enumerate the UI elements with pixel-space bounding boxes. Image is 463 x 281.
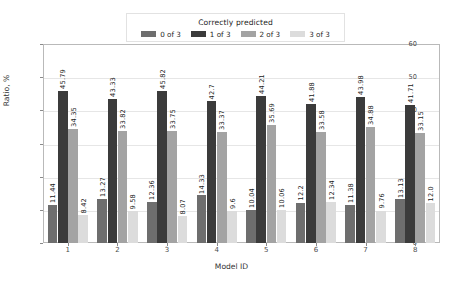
- y-axis-label: Ratio, %: [2, 75, 11, 107]
- x-tick-label: 4: [214, 246, 218, 254]
- bar-value-label: 12.34: [328, 180, 336, 200]
- legend-title: Correctly predicted: [198, 18, 273, 28]
- x-tick-mark: [266, 243, 267, 246]
- bar: [97, 199, 107, 243]
- x-tick-label: 6: [314, 246, 318, 254]
- bar-value-label: 33.75: [169, 109, 177, 129]
- bar: [415, 133, 425, 243]
- bars-layer: 11.4445.7934.358.4213.2743.3333.829.5812…: [43, 44, 440, 243]
- bar: [108, 99, 118, 243]
- bar: [217, 132, 227, 243]
- bar: [246, 210, 256, 243]
- bar: [306, 104, 316, 243]
- x-tick-mark: [217, 243, 218, 246]
- x-tick-label: 8: [413, 246, 417, 254]
- chart-legend: Correctly predicted 0 of 31 of 32 of 33 …: [126, 13, 345, 42]
- bar-value-label: 13.13: [397, 178, 405, 198]
- x-tick-mark: [366, 243, 367, 246]
- bar-value-label: 14.33: [198, 174, 206, 194]
- x-tick-label: 1: [66, 246, 70, 254]
- x-axis-label: Model ID: [0, 262, 463, 271]
- legend-swatch-icon: [241, 31, 256, 37]
- bar: [157, 91, 167, 243]
- bar: [395, 199, 405, 243]
- bar-value-label: 9.6: [229, 198, 237, 209]
- bar-value-label: 11.38: [347, 183, 355, 203]
- legend-label: 0 of 3: [160, 30, 181, 39]
- bar: [267, 125, 277, 243]
- legend-swatch-icon: [141, 31, 156, 37]
- x-tick-mark: [316, 243, 317, 246]
- bar: [376, 211, 386, 243]
- bar-value-label: 42.7: [208, 84, 216, 99]
- x-tick-label: 3: [165, 246, 169, 254]
- bar-value-label: 8.42: [80, 198, 88, 213]
- bar-value-label: 12.0: [427, 186, 435, 201]
- bar-value-label: 43.33: [109, 77, 117, 97]
- x-tick-mark: [68, 243, 69, 246]
- bar: [326, 202, 336, 243]
- bar-value-label: 33.15: [417, 111, 425, 131]
- bar-value-label: 33.37: [218, 110, 226, 130]
- bar: [197, 195, 207, 243]
- x-tick-label: 7: [363, 246, 367, 254]
- bar-value-label: 41.88: [308, 82, 316, 102]
- legend-entry-3[interactable]: 3 of 3: [290, 30, 330, 39]
- x-tick-mark: [415, 243, 416, 246]
- bar-value-label: 35.69: [268, 103, 276, 123]
- bar: [345, 205, 355, 243]
- x-tick-mark: [167, 243, 168, 246]
- legend-entries: 0 of 31 of 32 of 33 of 3: [141, 30, 330, 39]
- bar: [277, 210, 287, 243]
- bar: [78, 215, 88, 243]
- bar-value-label: 8.07: [179, 199, 187, 214]
- bar: [128, 211, 138, 243]
- bar-value-label: 43.98: [357, 75, 365, 95]
- bar: [167, 131, 177, 243]
- x-tick-mark: [117, 243, 118, 246]
- bar-value-label: 10.06: [278, 188, 286, 208]
- bar-value-label: 45.82: [159, 69, 167, 89]
- bar: [48, 205, 58, 243]
- bar-value-label: 45.79: [59, 69, 67, 89]
- bar: [147, 202, 157, 243]
- bar: [316, 132, 326, 243]
- bar: [58, 91, 68, 243]
- legend-entry-2[interactable]: 2 of 3: [241, 30, 281, 39]
- bar: [426, 203, 436, 243]
- x-tick-label: 2: [115, 246, 119, 254]
- bar: [405, 105, 415, 243]
- bar-value-label: 12.36: [148, 180, 156, 200]
- bar-value-label: 9.76: [378, 193, 386, 208]
- bar: [296, 203, 306, 243]
- legend-entry-0[interactable]: 0 of 3: [141, 30, 181, 39]
- bar-value-label: 33.82: [119, 109, 127, 129]
- bar: [207, 101, 217, 243]
- bar-value-label: 11.44: [49, 183, 57, 203]
- bar: [68, 129, 78, 243]
- bar-value-label: 41.71: [407, 83, 415, 103]
- bar-value-label: 34.35: [70, 107, 78, 127]
- bar-value-label: 34.88: [367, 105, 375, 125]
- y-tick-mark: [40, 243, 43, 244]
- bar: [256, 96, 266, 243]
- legend-label: 1 of 3: [210, 30, 231, 39]
- legend-swatch-icon: [290, 31, 305, 37]
- bar-value-label: 12.2: [297, 185, 305, 200]
- bar-value-label: 13.27: [99, 177, 107, 197]
- bar: [118, 131, 128, 243]
- bar: [366, 127, 376, 243]
- bar-value-label: 10.04: [248, 188, 256, 208]
- bar: [178, 216, 188, 243]
- x-tick-label: 5: [264, 246, 268, 254]
- bar: [356, 97, 366, 243]
- legend-entry-1[interactable]: 1 of 3: [191, 30, 231, 39]
- bar-value-label: 9.58: [129, 194, 137, 209]
- legend-label: 3 of 3: [309, 30, 330, 39]
- legend-label: 2 of 3: [260, 30, 281, 39]
- bar-value-label: 33.58: [318, 110, 326, 130]
- legend-swatch-icon: [191, 31, 206, 37]
- bar-value-label: 44.21: [258, 74, 266, 94]
- bar: [227, 211, 237, 243]
